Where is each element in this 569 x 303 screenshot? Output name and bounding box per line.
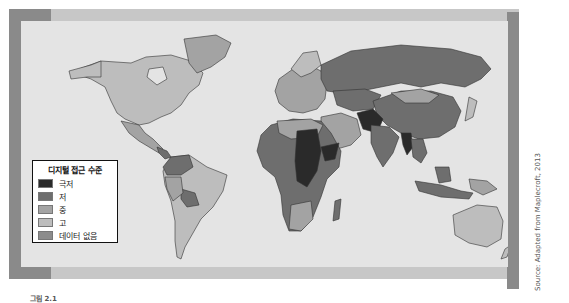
legend-item-medium: 중 [38, 203, 112, 216]
swatch-very-low [38, 179, 53, 188]
swatch-no-data [38, 231, 53, 240]
legend-item-no-data: 데이터 없음 [38, 229, 112, 242]
region-new-zealand [501, 245, 508, 259]
region-southern-africa [289, 201, 313, 231]
legend-item-low: 저 [38, 190, 112, 203]
region-mexico [121, 121, 163, 153]
region-central-america [157, 147, 171, 159]
legend-item-very-low: 극저 [38, 177, 112, 190]
legend-label: 저 [59, 191, 66, 202]
swatch-low [38, 192, 53, 201]
region-indonesia [415, 181, 473, 199]
region-alaska [69, 61, 101, 79]
figure-caption: 그림 2.1 [30, 293, 57, 303]
region-myanmar [401, 133, 413, 155]
region-russia [321, 45, 491, 93]
frame-accent-bottom-left [9, 267, 51, 279]
frame-accent-left [9, 9, 21, 279]
region-japan [465, 97, 477, 121]
legend-title: 디지털 접근 수준 [38, 164, 112, 175]
legend-label: 고 [59, 217, 66, 228]
swatch-high [38, 218, 53, 227]
legend-label: 중 [59, 204, 66, 215]
region-india [371, 125, 399, 167]
region-indochina [411, 139, 427, 163]
legend-label: 극저 [59, 178, 73, 189]
legend-label: 데이터 없음 [59, 230, 97, 241]
source-credit: Source: Adapted from Maplecroft, 2013 [534, 153, 542, 291]
region-borneo [435, 167, 451, 183]
swatch-medium [38, 205, 53, 214]
region-madagascar [333, 199, 341, 221]
frame-accent-bottom-right [510, 277, 519, 289]
legend-item-high: 고 [38, 216, 112, 229]
region-australia [453, 205, 503, 247]
region-kazakhstan [333, 89, 381, 111]
legend: 디지털 접근 수준 극저 저 중 고 데이터 없음 [32, 160, 118, 243]
frame-accent-right [507, 12, 519, 289]
region-new-guinea [469, 179, 497, 195]
frame-accent-top-left [9, 9, 51, 21]
